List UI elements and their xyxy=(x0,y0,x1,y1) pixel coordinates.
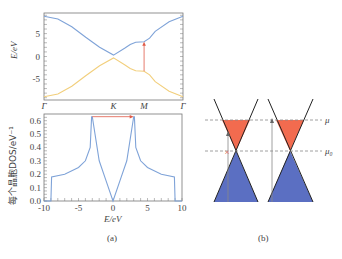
cone2-lower-filled xyxy=(268,151,313,202)
band-xtick-label: M xyxy=(139,101,148,111)
band-structure-plot: 50-5ΓKMΓ E/eV xyxy=(9,13,186,111)
dos-ytick-label: 0.3 xyxy=(30,156,42,166)
band-arrow-head xyxy=(142,42,146,46)
dos-ytick-label: 0.1 xyxy=(30,183,41,193)
dos-xlabel: E/eV xyxy=(103,214,123,224)
dos-ytick-label: 0.4 xyxy=(30,142,42,152)
dos-xtick-label: 5 xyxy=(145,203,150,213)
dos-line xyxy=(44,117,182,201)
dos-plot: 0.00.10.20.30.40.50.6-10-50510 E/eV 每个晶胞… xyxy=(7,114,187,224)
band-xtick-label: Γ xyxy=(40,101,47,111)
band-xtick-label: K xyxy=(109,101,117,111)
mu-label: μ xyxy=(324,115,330,125)
arrow-head-2 xyxy=(270,118,274,123)
caption-b: (b) xyxy=(258,233,269,243)
dos-ylabel: 每个晶胞DOS/eV⁻¹ xyxy=(7,126,18,205)
dirac-cone-diagram: μ μ₀ × xyxy=(205,99,333,202)
cone1-lower-filled xyxy=(214,151,258,202)
dos-ytick-label: 0.6 xyxy=(30,116,42,126)
figure: 50-5ΓKMΓ E/eV 0.00.10.20.30.40.50.6-10-5… xyxy=(0,0,342,259)
caption-a: (a) xyxy=(107,233,117,243)
dos-ytick-label: 0.2 xyxy=(30,169,41,179)
dos-xtick-label: 0 xyxy=(111,203,116,213)
band-ytick-label: 0 xyxy=(36,52,41,62)
dos-plot-frame xyxy=(44,114,182,201)
band-line-0 xyxy=(44,16,183,55)
band-ytick-label: 5 xyxy=(36,29,41,39)
cone2-upper-filled xyxy=(276,120,304,151)
band-ytick-label: -5 xyxy=(33,74,41,84)
dos-ytick-label: 0.5 xyxy=(30,129,42,139)
dos-xtick-label: 10 xyxy=(178,203,188,213)
mu0-label: μ₀ xyxy=(324,146,333,156)
band-line-1 xyxy=(44,58,183,97)
cross-icon: × xyxy=(225,147,230,157)
dos-xtick-label: -10 xyxy=(38,203,50,213)
band-ylabel: E/eV xyxy=(9,40,19,60)
dos-xtick-label: -5 xyxy=(75,203,83,213)
band-xtick-label: Γ xyxy=(179,101,186,111)
